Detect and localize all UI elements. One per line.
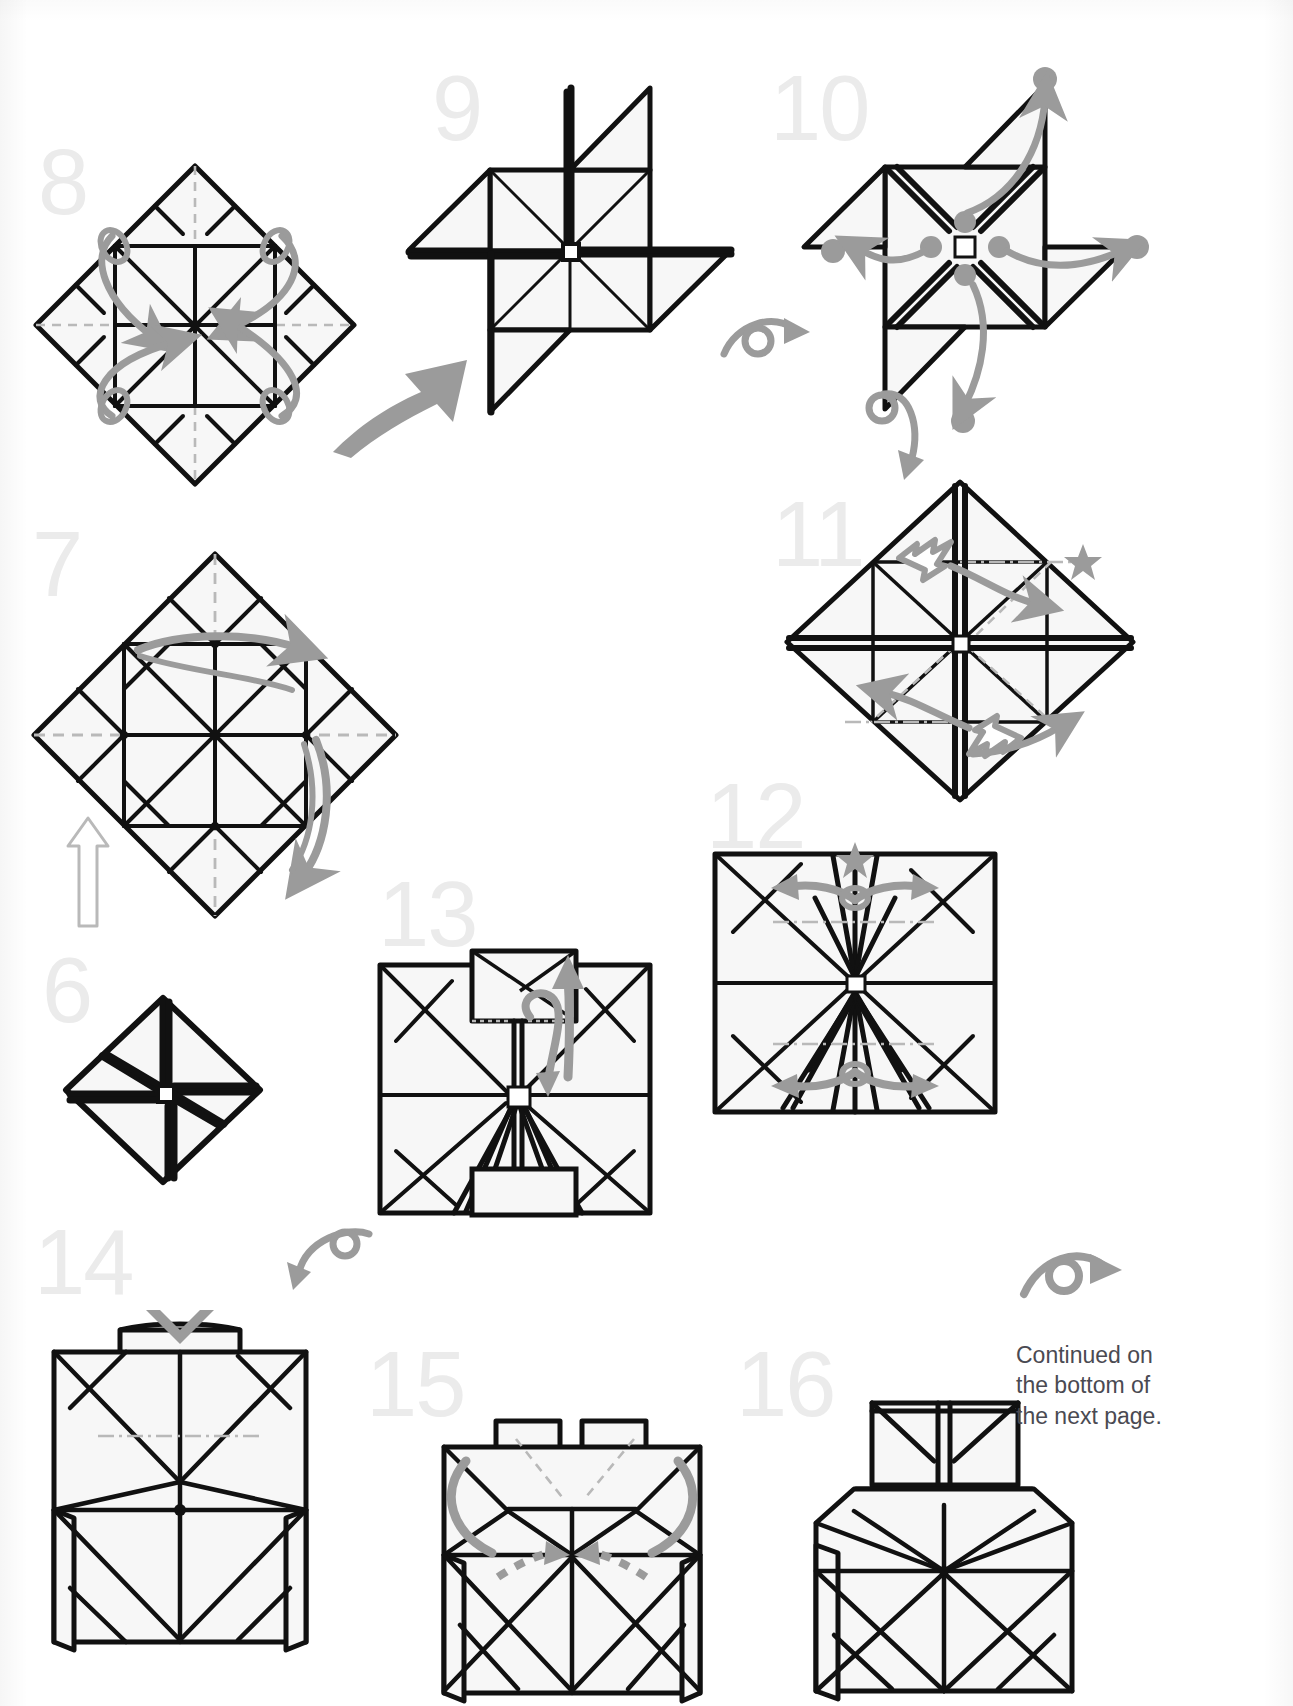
turn-over-symbol-14-15 [285,1228,375,1308]
figure-step-9 [395,70,745,440]
turn-over-symbol-next-page [1018,1240,1128,1310]
figure-step-12 [705,840,1005,1130]
figure-step-13 [370,955,660,1220]
dot-outer-e [1125,235,1149,259]
hollow-up-arrow-7 [64,812,116,930]
dot-outer-s [951,409,975,433]
figure-step-10 [745,55,1165,455]
figure-step-16 [800,1395,1090,1705]
figure-step-6 [58,990,268,1190]
figure-step-8 [20,150,370,500]
caption-line-1: Continued on [1016,1340,1256,1370]
figure-step-11 [775,470,1145,820]
dot-outer-n [1033,67,1057,91]
turn-over-symbol-9-10 [718,308,818,368]
continued-caption: Continued on the bottom of the next page… [1016,1340,1256,1431]
figure-step-14 [40,1310,320,1660]
step-number-14: 14 [34,1216,132,1308]
figure-step-15 [430,1405,720,1705]
caption-line-3: the next page. [1016,1401,1256,1431]
caption-line-2: the bottom of [1016,1370,1256,1400]
dot-outer-w [821,239,845,263]
origami-diagram-page: 8 9 10 7 11 12 6 13 14 15 16 [0,0,1293,1706]
